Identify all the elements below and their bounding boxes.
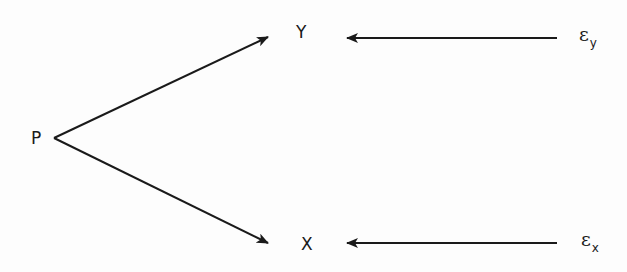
node-y: Y <box>296 24 306 41</box>
edge-p-to-y <box>54 37 268 138</box>
edge-p-to-x <box>54 138 268 243</box>
diagram-canvas <box>0 0 627 272</box>
node-p-label: P <box>31 128 41 148</box>
epsilon-y-subscript: y <box>590 36 597 50</box>
path-diagram: P Y X εy εx <box>0 0 627 272</box>
node-epsilon-x: εx <box>581 230 599 249</box>
node-p: P <box>31 130 41 147</box>
epsilon-x-subscript: x <box>592 241 599 255</box>
node-x-label: X <box>301 234 313 254</box>
node-x: X <box>301 236 313 253</box>
epsilon-symbol: ε <box>579 23 589 45</box>
node-y-label: Y <box>296 22 306 42</box>
node-epsilon-y: εy <box>579 25 597 44</box>
epsilon-symbol: ε <box>581 228 591 250</box>
